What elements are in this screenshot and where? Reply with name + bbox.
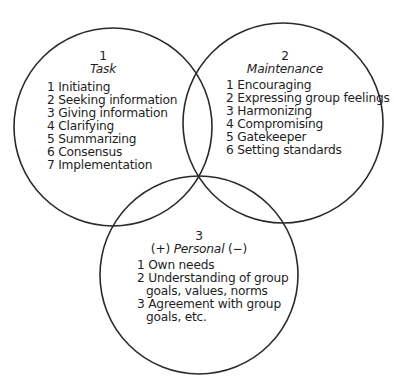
- task-block: 1 Task 1 Initiating 2 Seeking informatio…: [47, 50, 197, 172]
- maintenance-heading: Maintenance: [226, 63, 344, 76]
- maintenance-block: 2 Maintenance 1 Encouraging 2 Expressing…: [226, 50, 386, 157]
- negative-sign: (−): [228, 242, 247, 256]
- maintenance-items: 1 Encouraging 2 Expressing group feeling…: [226, 79, 386, 157]
- personal-items: 1 Own needs 2 Understanding of group goa…: [137, 259, 297, 324]
- task-item: 7 Implementation: [47, 159, 197, 172]
- personal-item: 2 Understanding of group goals, values, …: [137, 272, 297, 298]
- personal-item: 3 Agreement with group goals, etc.: [137, 298, 297, 324]
- maintenance-item: 6 Setting standards: [226, 144, 386, 157]
- positive-sign: (+): [151, 242, 170, 256]
- personal-item-continuation: goals, etc.: [137, 311, 297, 324]
- personal-item-text: 2 Understanding of group: [137, 271, 289, 285]
- personal-item-text: 3 Agreement with group: [137, 297, 281, 311]
- personal-item-text: 1 Own needs: [137, 258, 214, 272]
- task-items: 1 Initiating 2 Seeking information 3 Giv…: [47, 81, 197, 172]
- personal-block: 3 (+) Personal (−) 1 Own needs 2 Underst…: [137, 230, 297, 324]
- personal-heading: Personal: [174, 242, 225, 256]
- task-heading: Task: [47, 63, 159, 76]
- personal-heading-row: (+) Personal (−): [137, 243, 261, 256]
